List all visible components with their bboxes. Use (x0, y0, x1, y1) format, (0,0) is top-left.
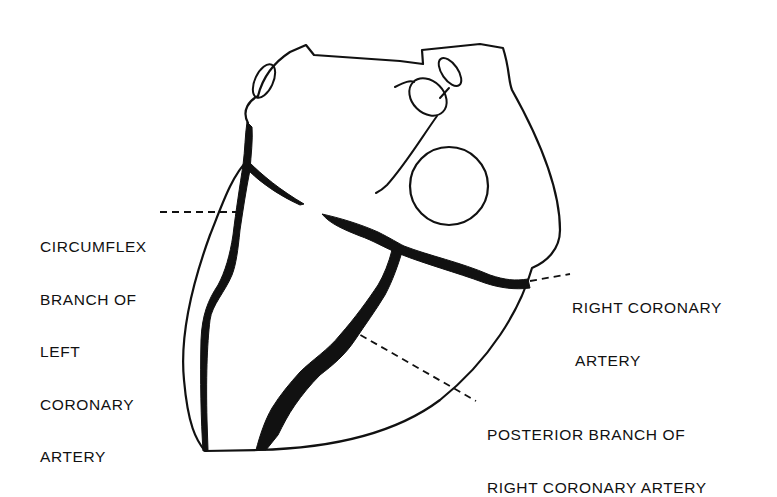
label-posterior-branch: POSTERIOR BRANCH OF RIGHT CORONARY ARTER… (487, 391, 707, 497)
posterior-branch-artery (256, 250, 402, 450)
label-circumflex-line-3: LEFT (40, 343, 147, 361)
heart-outline (183, 44, 560, 451)
label-circumflex-line-5: ARTERY (40, 448, 147, 466)
label-circumflex-line-2: BRANCH OF (40, 291, 147, 309)
label-right-coronary-line-1: RIGHT CORONARY (572, 299, 722, 317)
label-circumflex-line-4: CORONARY (40, 396, 147, 414)
label-posterior-branch-line-1: POSTERIOR BRANCH OF (487, 426, 707, 444)
right-coronary-artery (322, 214, 530, 289)
leader-right-coronary (530, 274, 570, 281)
circumflex-artery (201, 122, 253, 451)
label-posterior-branch-line-2: RIGHT CORONARY ARTERY (487, 479, 707, 497)
label-right-coronary-line-2: ARTERY (572, 352, 722, 370)
label-right-coronary: RIGHT CORONARY ARTERY (572, 264, 722, 387)
circumflex-side-branch (248, 162, 304, 205)
leader-posterior-branch (350, 329, 476, 401)
label-circumflex: CIRCUMFLEX BRANCH OF LEFT CORONARY ARTER… (40, 203, 147, 483)
label-circumflex-line-1: CIRCUMFLEX (40, 238, 147, 256)
vessel-opening (410, 147, 488, 225)
